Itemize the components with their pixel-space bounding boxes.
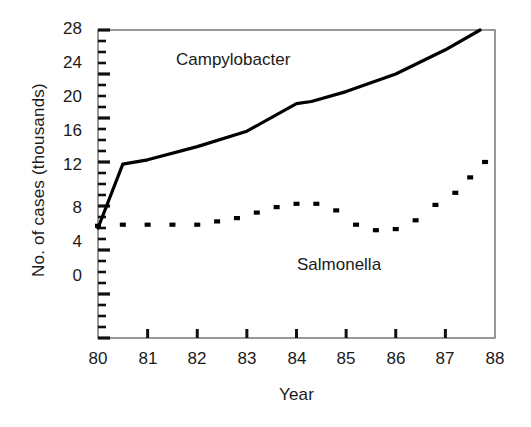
chart-figure: No. of cases (thousands) Year 28 24 20 1… bbox=[0, 0, 531, 427]
data-point bbox=[313, 202, 319, 206]
data-point bbox=[353, 223, 359, 227]
series-dots-salmonella bbox=[95, 160, 488, 232]
plot-area bbox=[0, 0, 531, 427]
data-point bbox=[393, 227, 399, 231]
data-point bbox=[234, 216, 240, 220]
data-point bbox=[214, 219, 220, 223]
data-point bbox=[194, 223, 200, 227]
data-point bbox=[120, 223, 126, 227]
data-point bbox=[169, 223, 175, 227]
data-point bbox=[333, 208, 339, 212]
data-series bbox=[95, 30, 488, 232]
data-point bbox=[274, 205, 280, 209]
data-point bbox=[254, 211, 260, 215]
data-point bbox=[413, 218, 419, 222]
data-point bbox=[467, 175, 473, 179]
data-point bbox=[145, 223, 151, 227]
plot-frame bbox=[98, 30, 495, 338]
data-point bbox=[95, 224, 101, 228]
data-point bbox=[432, 203, 438, 207]
data-point bbox=[294, 202, 300, 206]
plot-border bbox=[98, 30, 495, 338]
data-point bbox=[452, 191, 458, 195]
data-point bbox=[482, 160, 488, 164]
data-point bbox=[373, 228, 379, 232]
series-line-campylobacter bbox=[98, 30, 480, 228]
